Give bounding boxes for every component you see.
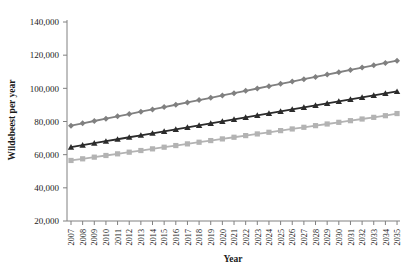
series-marker [185, 141, 190, 146]
series-marker [266, 130, 271, 135]
series-marker [301, 125, 306, 130]
series-marker [162, 145, 167, 150]
x-tick-label: 2033 [370, 229, 379, 245]
x-tick-label: 2027 [300, 229, 309, 245]
x-tick-label: 2017 [184, 229, 193, 245]
series-marker [383, 113, 388, 118]
x-tick-label: 2034 [382, 229, 391, 245]
y-tick-label: 40,000 [34, 183, 59, 193]
series-marker [348, 118, 353, 123]
y-tick-label: 120,000 [30, 50, 60, 60]
series-marker [371, 115, 376, 120]
x-tick-label: 2029 [323, 229, 332, 245]
wildebeest-projection-chart: 20,00040,00060,00080,000100,000120,00014… [0, 0, 408, 273]
x-tick-label: 2031 [347, 229, 356, 245]
x-tick-label: 2025 [277, 229, 286, 245]
x-tick-label: 2013 [137, 229, 146, 245]
x-tick-label: 2010 [102, 229, 111, 245]
series-marker [115, 151, 120, 156]
series-marker [243, 133, 248, 138]
x-tick-label: 2026 [288, 229, 297, 245]
x-tick-label: 2009 [90, 229, 99, 245]
series-marker [150, 146, 155, 151]
x-tick-label: 2019 [207, 229, 216, 245]
y-tick-label: 60,000 [34, 150, 59, 160]
series-marker [138, 148, 143, 153]
x-tick-label: 2028 [312, 229, 321, 245]
series-marker [196, 140, 201, 145]
series-marker [103, 153, 108, 158]
x-tick-label: 2012 [125, 229, 134, 245]
x-tick-label: 2035 [393, 229, 402, 245]
series-marker [325, 121, 330, 126]
series-marker [127, 150, 132, 155]
y-axis-title: Wildebeest per year [7, 79, 17, 161]
series-marker [313, 123, 318, 128]
x-tick-label: 2007 [67, 229, 76, 245]
x-tick-label: 2022 [242, 229, 251, 245]
y-tick-label: 20,000 [34, 216, 59, 226]
x-tick-label: 2020 [219, 229, 228, 245]
y-tick-label: 100,000 [30, 84, 60, 94]
series-marker [336, 120, 341, 125]
series-marker [231, 135, 236, 140]
series-marker [360, 116, 365, 121]
series-marker [255, 131, 260, 136]
series-marker [220, 136, 225, 141]
series-marker [68, 158, 73, 163]
x-tick-label: 2015 [160, 229, 169, 245]
y-tick-label: 80,000 [34, 117, 59, 127]
x-axis-title: Year [224, 254, 244, 264]
x-tick-label: 2018 [195, 229, 204, 245]
series-marker [92, 155, 97, 160]
x-tick-label: 2016 [172, 229, 181, 245]
x-tick-label: 2023 [254, 229, 263, 245]
series-marker [208, 138, 213, 143]
x-tick-label: 2030 [335, 229, 344, 245]
y-tick-label: 140,000 [30, 17, 60, 27]
x-tick-label: 2008 [79, 229, 88, 245]
chart-canvas: 20,00040,00060,00080,000100,000120,00014… [0, 0, 408, 273]
x-tick-label: 2032 [358, 229, 367, 245]
x-tick-label: 2011 [114, 229, 123, 245]
series-marker [80, 156, 85, 161]
series-marker [173, 143, 178, 148]
x-tick-label: 2024 [265, 229, 274, 245]
series-marker [278, 128, 283, 133]
x-tick-label: 2021 [230, 229, 239, 245]
x-tick-label: 2014 [149, 229, 158, 245]
series-marker [290, 126, 295, 131]
series-marker [394, 111, 399, 116]
